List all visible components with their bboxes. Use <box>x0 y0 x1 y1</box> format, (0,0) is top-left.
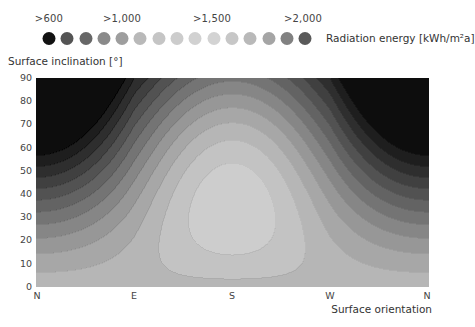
y-tick-label: 10 <box>20 258 32 269</box>
legend-label: >2,000 <box>284 13 322 24</box>
legend-swatch <box>299 32 312 45</box>
legend-swatch <box>43 32 56 45</box>
legend-swatch <box>80 32 93 45</box>
y-tick-label: 20 <box>20 234 32 245</box>
y-tick-label: 50 <box>20 165 32 176</box>
legend-swatch <box>189 32 202 45</box>
x-tick-label: N <box>423 290 430 301</box>
y-tick-label: 70 <box>20 118 32 129</box>
legend-label: >600 <box>35 13 63 24</box>
legend-swatch <box>153 32 166 45</box>
y-tick-label: 30 <box>20 211 32 222</box>
y-tick-label: 60 <box>20 142 32 153</box>
x-tick-label: E <box>131 290 137 301</box>
legend-swatch <box>171 32 184 45</box>
x-axis-label: Surface orientation <box>331 303 432 315</box>
legend-swatch <box>208 32 221 45</box>
legend-swatch <box>98 32 111 45</box>
x-tick-label: W <box>325 290 334 301</box>
legend-swatch <box>134 32 147 45</box>
legend-swatch <box>61 32 74 45</box>
y-tick-label: 40 <box>20 188 32 199</box>
y-tick-label: 80 <box>20 95 32 106</box>
legend-label: >1,500 <box>193 13 231 24</box>
y-axis-label: Surface inclination [°] <box>8 55 123 67</box>
legend-swatch <box>263 32 276 45</box>
legend-swatch <box>116 32 129 45</box>
legend-title: Radiation energy [kWh/m²a] <box>326 32 475 44</box>
y-tick-label: 90 <box>20 72 32 83</box>
x-tick-label: S <box>229 290 235 301</box>
legend-swatch <box>226 32 239 45</box>
legend-label: >1,000 <box>103 13 141 24</box>
y-tick-label: 0 <box>26 281 32 292</box>
x-tick-label: N <box>33 290 40 301</box>
legend-swatch <box>244 32 257 45</box>
legend-swatch <box>281 32 294 45</box>
heatmap-plot <box>36 78 429 287</box>
